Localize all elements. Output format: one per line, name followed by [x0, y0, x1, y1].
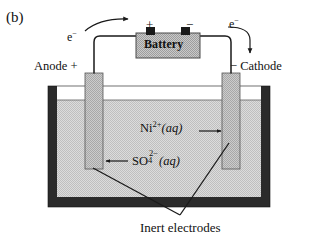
- electrolytic-cell-figure: (b) e− e− + − Battery Anode + − Cathode …: [0, 0, 319, 241]
- cation-state: (aq): [162, 121, 183, 135]
- panel-label: (b): [6, 10, 24, 25]
- anion-state: (aq): [159, 154, 180, 168]
- negative-terminal-label: −: [186, 18, 193, 31]
- anion-label: SO42−(aq): [132, 152, 180, 167]
- cathode-label: − Cathode: [230, 60, 282, 73]
- battery-label: Battery: [144, 38, 183, 50]
- anode-label: Anode +: [34, 60, 78, 73]
- cathode-electrode: [222, 73, 240, 169]
- cation-symbol: Ni: [140, 121, 153, 135]
- positive-terminal-label: +: [146, 18, 153, 31]
- electron-label-right-charge: −: [234, 16, 239, 25]
- electron-label-right: e−: [229, 18, 239, 30]
- electron-arrow-left: [85, 19, 128, 31]
- electron-label-left: e−: [67, 31, 77, 43]
- anion-symbol: SO: [132, 154, 148, 168]
- anion-charge: 2−: [149, 149, 158, 158]
- electron-label-left-charge: −: [72, 29, 77, 38]
- anion-charge-stack: 42−: [148, 152, 159, 165]
- cation-label: Ni2+(aq): [140, 122, 182, 135]
- cation-charge: 2+: [153, 119, 162, 129]
- anode-electrode: [85, 73, 103, 169]
- figure-caption: Inert electrodes: [140, 221, 220, 234]
